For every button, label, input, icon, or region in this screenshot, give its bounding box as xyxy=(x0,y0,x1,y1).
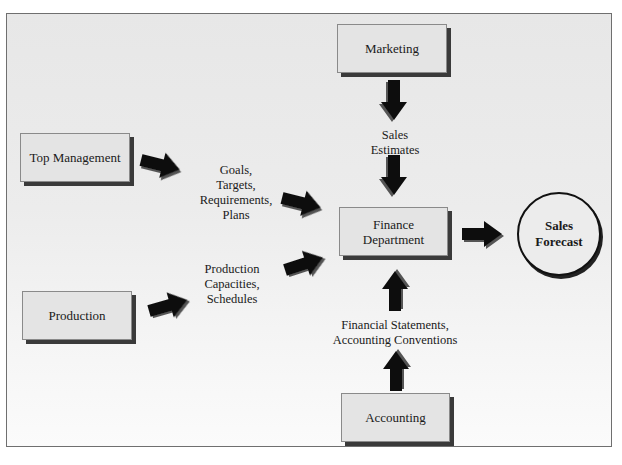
label-line: Plans xyxy=(196,208,276,223)
arrow-marketing-to-estimates-icon xyxy=(381,80,407,120)
node-label: Top Management xyxy=(29,150,120,165)
arrow-statements-to-finance-icon xyxy=(382,271,408,311)
label-line: Financial Statements, xyxy=(330,318,460,333)
arrow-production-to-capacities-icon xyxy=(145,287,191,323)
node-label: Production xyxy=(48,308,105,323)
node-sales-forecast: Sales Forecast xyxy=(517,192,601,276)
flow-label-production-capacities: Production Capacities, Schedules xyxy=(192,262,272,307)
flow-label-financial-statements: Financial Statements, Accounting Convent… xyxy=(330,318,460,348)
arrow-capacities-to-finance-icon xyxy=(281,245,327,282)
arrow-finance-to-forecast-icon xyxy=(462,221,502,247)
label-line: Production xyxy=(192,262,272,277)
node-marketing: Marketing xyxy=(337,24,447,73)
label-line: Accounting Conventions xyxy=(330,333,460,348)
label-line: Capacities, xyxy=(192,277,272,292)
flow-label-sales-estimates: Sales Estimates xyxy=(355,128,435,158)
label-line: Targets, xyxy=(196,178,276,193)
arrow-accounting-to-statements-icon xyxy=(383,351,409,391)
node-finance-department: Finance Department xyxy=(339,207,448,256)
label-line: Requirements, xyxy=(196,193,276,208)
node-label-line1: Finance xyxy=(373,217,414,232)
node-label: Accounting xyxy=(365,410,426,425)
label-line: Goals, xyxy=(196,163,276,178)
label-line: Sales xyxy=(355,128,435,143)
arrow-estimates-to-finance-icon xyxy=(381,155,407,195)
node-label-line2: Forecast xyxy=(535,234,582,250)
node-accounting: Accounting xyxy=(341,393,450,442)
node-top-management: Top Management xyxy=(20,133,130,182)
node-label: Marketing xyxy=(365,41,419,56)
label-line: Schedules xyxy=(192,292,272,307)
arrow-topmgmt-to-goals-icon xyxy=(138,147,183,182)
node-production: Production xyxy=(22,291,132,340)
label-line: Estimates xyxy=(355,143,435,158)
node-label-line1: Sales xyxy=(545,218,573,234)
flow-label-goals: Goals, Targets, Requirements, Plans xyxy=(196,163,276,223)
node-label-line2: Department xyxy=(363,232,424,247)
arrow-goals-to-finance-icon xyxy=(279,185,324,220)
